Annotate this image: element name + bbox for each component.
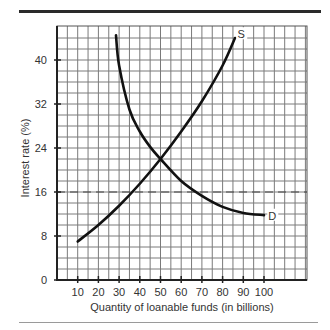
x-tick-label: 20 — [92, 286, 104, 298]
x-tick-label: 90 — [237, 286, 249, 298]
x-tick-label: 10 — [72, 286, 84, 298]
loanable-funds-chart: 102030405060708090100 0816243240 SD Quan… — [0, 0, 330, 330]
y-tick-label: 16 — [35, 186, 47, 198]
x-axis-title: Quantity of loanable funds (in billions) — [90, 301, 273, 313]
x-tick-label: 30 — [113, 286, 125, 298]
demand-label: D — [268, 210, 276, 222]
x-tick-label: 60 — [175, 286, 187, 298]
x-tick-label: 100 — [255, 286, 273, 298]
x-tick-label: 70 — [196, 286, 208, 298]
y-axis-title: Interest rate (%) — [19, 119, 31, 198]
y-tick-label: 32 — [35, 98, 47, 110]
x-tick-label: 40 — [134, 286, 146, 298]
y-tick-label: 40 — [35, 54, 47, 66]
bottom-rule — [19, 322, 318, 323]
demand-curve — [116, 35, 264, 215]
y-tick-label: 8 — [41, 230, 47, 242]
y-tick-label: 24 — [35, 142, 47, 154]
plot-border — [57, 26, 307, 280]
supply-label: S — [238, 28, 245, 40]
y-tick-label: 0 — [41, 274, 47, 286]
x-tick-label: 50 — [154, 286, 166, 298]
grid — [57, 26, 307, 280]
x-tick-label: 80 — [216, 286, 228, 298]
supply-curve — [78, 38, 235, 242]
